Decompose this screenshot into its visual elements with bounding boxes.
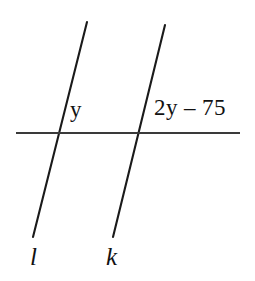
line-label-l: l [30,244,37,269]
line-l [33,22,87,237]
geometry-figure: y 2y – 75 l k [0,0,255,281]
geometry-canvas [0,0,255,281]
line-label-k: k [106,244,117,269]
angle-label-y: y [70,98,82,121]
line-k [113,25,165,237]
angle-label-expression: 2y – 75 [154,96,226,119]
